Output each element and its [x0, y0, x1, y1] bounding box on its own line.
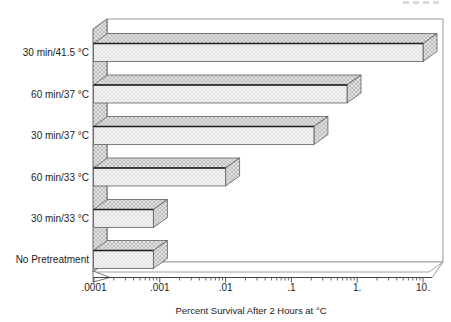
cropped-page-number-artifact: [403, 1, 439, 4]
category-label: 30 min/37 °C: [31, 130, 89, 141]
chart-geometry: [93, 19, 443, 283]
category-label: 60 min/33 °C: [31, 172, 89, 183]
figure-page: 30 min/41.5 °C 60 min/37 °C 30 min/37 °C…: [0, 0, 451, 322]
category-label: 60 min/37 °C: [31, 89, 89, 100]
x-axis-title: Percent Survival After 2 Hours at °C: [175, 305, 326, 316]
category-label: 30 min/41.5 °C: [23, 47, 89, 58]
x-tick-label: .1: [287, 282, 296, 293]
x-tick-label: .0001: [81, 282, 106, 293]
category-label: No Pretreatment: [16, 254, 90, 265]
x-tick-label: .01: [219, 282, 233, 293]
x-tick-label: .001: [150, 282, 170, 293]
category-label: 30 min/33 °C: [31, 213, 89, 224]
survival-bar-chart: 30 min/41.5 °C 60 min/37 °C 30 min/37 °C…: [0, 0, 451, 322]
x-tick-label: 1.: [353, 282, 361, 293]
x-tick-label: 10.: [416, 282, 430, 293]
